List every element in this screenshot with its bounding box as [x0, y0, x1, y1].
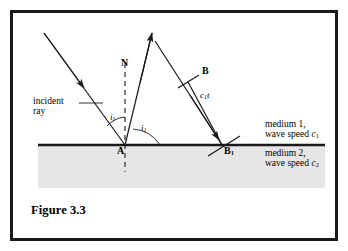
angle-label-reflected: i1: [141, 124, 146, 134]
angle-label-reflected-sub: 1: [144, 127, 147, 133]
point-label-b1-sub: 1: [231, 149, 234, 156]
path-length-label: c1t: [200, 91, 209, 101]
incident-ray-1-arrow: [44, 33, 84, 88]
medium-2-speed-sub: 2: [316, 162, 319, 169]
medium-1-line2: wave speed c1: [265, 129, 319, 140]
angle-label-incident-sub: 1: [113, 116, 116, 122]
path-length-tail: t: [207, 90, 210, 100]
incident-ray-label-line1: incident: [33, 96, 64, 106]
point-label-a: A: [117, 146, 124, 157]
angle-arc-reflected: [133, 129, 160, 145]
incident-ray-label-line2: ray: [33, 106, 64, 116]
angle-label-incident: i1: [110, 113, 115, 123]
figure-container: N B A B1 i1 i1 incident ray c1t medium 1…: [0, 0, 348, 251]
medium-2-prefix: wave speed: [265, 158, 311, 168]
point-label-b1-base: B: [224, 145, 231, 156]
reflected-ray-arrow: [140, 33, 152, 83]
figure-caption: Figure 3.3: [31, 204, 86, 218]
medium-1-line1: medium 1,: [265, 119, 319, 129]
medium-2-line1: medium 2,: [265, 148, 319, 158]
medium-1-label: medium 1, wave speed c1: [265, 119, 319, 140]
medium-1-speed-sub: 1: [316, 133, 319, 140]
point-label-n: N: [121, 58, 128, 69]
medium-1-prefix: wave speed: [265, 129, 311, 139]
point-label-b: B: [202, 66, 209, 77]
incident-ray-label: incident ray: [33, 96, 64, 117]
medium-2-line2: wave speed c2: [265, 158, 319, 169]
incident-ray-2-arrow: [190, 95, 219, 140]
medium-2-label: medium 2, wave speed c2: [265, 148, 319, 169]
point-label-b1: B1: [224, 146, 234, 157]
